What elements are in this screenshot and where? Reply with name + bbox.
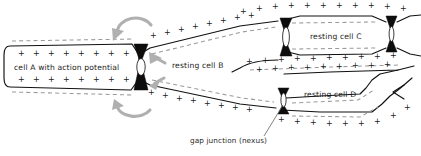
charge-plus: + [342,119,349,128]
charge-plus: + [78,49,85,58]
charge-plus: + [310,118,317,127]
charge-plus: + [272,64,279,73]
charge-plus: + [304,1,311,10]
charge-plus: + [63,75,70,84]
cell-c-membrane-top [288,16,386,22]
charge-plus: + [262,56,269,65]
charge-plus: + [310,54,317,63]
charge-plus: + [352,1,359,10]
charge-plus: + [288,1,295,10]
cell-c-label: resting cell C [310,32,362,41]
charges-cell-d-outside-bottom: + + + + + + + + + [278,103,411,128]
charge-plus: + [278,115,285,124]
charge-plus: + [192,22,199,31]
charge-plus: + [278,55,285,64]
charge-plus: + [93,49,100,58]
charge-plus: + [320,62,327,71]
charge-plus: + [246,105,253,114]
charge-plus: + [352,61,359,70]
junction-b-c [280,18,292,56]
charge-plus: + [384,60,391,69]
charge-plus: + [176,94,183,103]
charge-plus: + [18,75,25,84]
charge-plus: + [390,111,397,120]
cell-b-label: resting cell B [172,61,224,70]
charge-plus: + [48,49,55,58]
charge-plus: + [288,63,295,72]
cell-c-right-neighbor-top [397,15,421,22]
charge-plus: + [248,11,255,20]
charge-plus: + [326,119,333,128]
current-arrow-bottom [112,99,150,116]
charge-plus: + [123,49,130,58]
charge-plus: + [162,91,169,100]
charge-plus: + [220,16,227,25]
charge-plus: + [400,4,407,13]
charge-plus: + [304,63,311,72]
charge-plus: + [246,57,253,66]
charge-plus: + [374,117,381,126]
charge-plus: + [150,31,157,40]
charge-plus: + [240,7,247,16]
charge-plus: + [294,117,301,126]
charges-cell-c-outside-top: + + + + + + + + + + + [240,1,407,16]
current-arrow-top [112,18,151,41]
gap-junction-label: gap junction (nexus) [190,136,267,145]
cell-a-outer-dash-top [12,39,134,41]
charge-plus: + [342,53,349,62]
charge-plus: + [206,19,213,28]
charge-plus: + [368,1,375,10]
charge-plus: + [358,52,365,61]
charge-plus: + [148,88,155,97]
charge-plus: + [204,99,211,108]
cell-a-outer-dash-bottom [12,92,133,95]
charge-plus: + [48,75,55,84]
junction-c-right [386,16,397,52]
charge-plus: + [33,49,40,58]
charge-plus: + [294,54,301,63]
charge-plus: + [404,103,411,112]
cell-c-inner-dash-top [292,22,376,23]
charge-plus: + [368,61,375,70]
charge-plus: + [178,25,185,34]
charge-plus: + [108,49,115,58]
charge-plus: + [232,103,239,112]
charge-plus: + [390,51,397,60]
cell-c-inner-dash-bottom [292,48,378,49]
cell-a-label: cell A with action potential [14,63,119,72]
charge-plus: + [256,4,263,13]
charge-plus: + [320,1,327,10]
charge-plus: + [63,49,70,58]
charge-plus: + [190,96,197,105]
charge-plus: + [33,75,40,84]
charge-plus: + [374,52,381,61]
charge-plus: + [78,75,85,84]
current-arrow-inner-upper [149,52,165,64]
charge-plus: + [164,28,171,37]
charge-plus: + [256,65,263,74]
charge-plus: + [218,101,225,110]
charge-plus: + [336,62,343,71]
charge-plus: + [384,2,391,11]
gap-junction-diagram: + + + + + + + + + + + + + + + + + + + + … [0,0,421,156]
charge-plus: + [358,119,365,128]
charge-plus: + [326,53,333,62]
charge-plus: + [108,75,115,84]
cell-c-right-neighbor-bottom [397,48,421,56]
charge-plus: + [93,75,100,84]
charge-plus: + [123,75,130,84]
charge-plus: + [18,49,25,58]
cell-d-label: resting cell D [304,90,356,99]
charge-plus: + [272,2,279,11]
charge-plus: + [336,1,343,10]
